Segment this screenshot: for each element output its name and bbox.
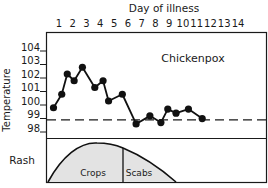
x-tick-label: 10	[177, 18, 190, 29]
crops-label: Crops	[80, 168, 106, 178]
y-tick-label: 103	[21, 55, 40, 66]
x-tick-label: 8	[152, 18, 158, 29]
x-tick-label: 2	[70, 18, 76, 29]
data-point	[64, 70, 71, 77]
chart-title: Chickenpox	[161, 52, 225, 65]
x-axis-title: Day of illness	[129, 2, 199, 14]
y-tick-label: 98	[27, 123, 40, 134]
data-point	[199, 115, 206, 122]
x-tick-label: 13	[218, 18, 231, 29]
data-point	[185, 106, 192, 113]
temperature-line	[53, 67, 202, 124]
data-point	[79, 64, 86, 71]
y-tick-label: 100	[21, 96, 40, 107]
y-tick-label: 104	[21, 42, 40, 53]
data-point	[133, 120, 140, 127]
x-tick-label: 3	[83, 18, 89, 29]
x-tick-label: 11	[190, 18, 203, 29]
chickenpox-chart: Day of illness 1234567891011121314 Tempe…	[0, 0, 268, 188]
x-tick-label: 9	[166, 18, 172, 29]
data-point	[91, 84, 98, 91]
data-point	[105, 97, 112, 104]
data-point	[119, 91, 126, 98]
x-tick-label: 12	[204, 18, 217, 29]
data-point	[157, 119, 164, 126]
x-tick-label: 6	[125, 18, 131, 29]
data-point	[99, 77, 106, 84]
scabs-label: Scabs	[126, 168, 153, 178]
data-point	[71, 77, 78, 84]
x-tick-labels: 1234567891011121314	[56, 18, 245, 29]
y-axis-title: Temperature	[1, 68, 12, 132]
temperature-points	[50, 64, 206, 128]
y-tick-label: 101	[21, 82, 40, 93]
x-tick-label: 1	[56, 18, 62, 29]
data-point	[58, 91, 65, 98]
x-tick-label: 5	[111, 18, 117, 29]
x-tick-label: 4	[97, 18, 103, 29]
y-tick-label: 99	[27, 109, 40, 120]
data-point	[146, 112, 153, 119]
x-tick-label: 14	[232, 18, 245, 29]
data-point	[172, 110, 179, 117]
data-point	[50, 104, 57, 111]
x-tick-label: 7	[138, 18, 144, 29]
y-tick-label: 102	[21, 69, 40, 80]
data-point	[164, 106, 171, 113]
rash-label: Rash	[9, 154, 35, 166]
y-tick-labels: 1041031021011009998	[21, 42, 47, 134]
